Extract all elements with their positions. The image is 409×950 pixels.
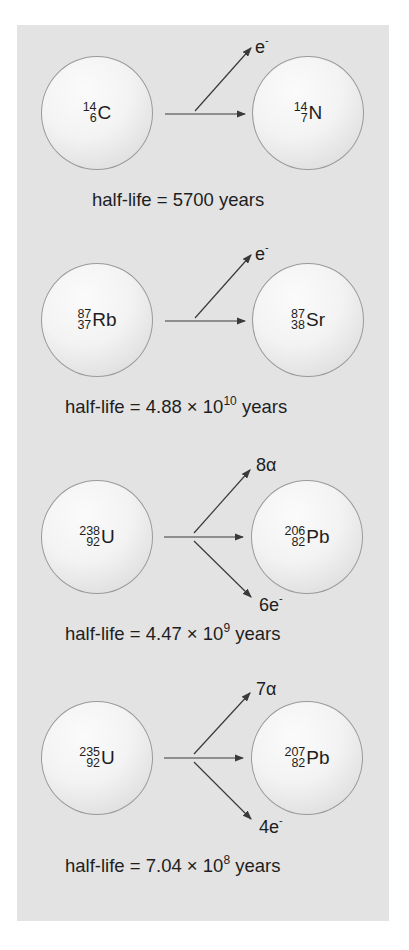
decay-carbon-14: 146C 147N e- half-life = 5700 years (0, 0, 409, 220)
emission-arrow-icon (195, 48, 251, 111)
decay-uranium-238: 23892U 20682Pb 8α 6e- half-life = 4.47 ×… (0, 423, 409, 643)
alpha-emission-label: 7α (256, 680, 276, 698)
decay-arrows (0, 207, 409, 427)
decay-arrows (0, 0, 409, 220)
beta-emission-label: 6e- (259, 596, 283, 614)
emission-label: e- (255, 38, 269, 56)
half-life-text: half-life = 4.47 × 109 years (65, 624, 280, 644)
half-life-text: half-life = 7.04 × 108 years (65, 856, 280, 876)
alpha-emission-arrow-icon (194, 693, 250, 754)
beta-emission-label: 4e- (259, 818, 283, 836)
decay-arrows (0, 644, 409, 874)
decay-uranium-235: 23592U 20782Pb 7α 4e- half-life = 7.04 ×… (0, 644, 409, 864)
decay-arrows (0, 423, 409, 653)
half-life-text: half-life = 4.88 × 1010 years (65, 397, 287, 417)
decay-rubidium-87: 8737Rb 8738Sr e- half-life = 4.88 × 1010… (0, 207, 409, 427)
beta-emission-arrow-icon (194, 762, 251, 819)
emission-label: e- (255, 245, 269, 263)
alpha-emission-label: 8α (256, 456, 276, 474)
beta-emission-arrow-icon (194, 541, 251, 597)
emission-arrow-icon (195, 255, 251, 318)
alpha-emission-arrow-icon (194, 470, 250, 533)
